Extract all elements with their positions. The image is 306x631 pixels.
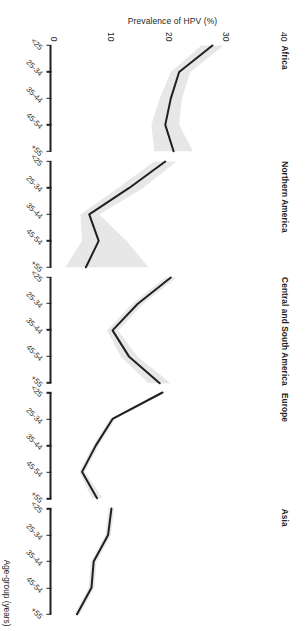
x-axis-tick-label: 25-34 — [25, 59, 45, 79]
chart-panel: Europe — [52, 393, 290, 509]
x-axis-tick-label: 45-54 — [25, 575, 45, 595]
panel-title: Europe — [280, 393, 290, 422]
x-axis-tick-label: 35-44 — [25, 548, 45, 568]
x-axis-tick-label: 35-44 — [25, 201, 45, 221]
x-axis-tick-label: 45-54 — [25, 343, 45, 363]
y-axis-tick-labels: 010203040 — [54, 22, 284, 42]
y-axis-tick-label: 10 — [107, 33, 117, 42]
x-axis-tick-label: 45-54 — [25, 112, 45, 132]
chart-panel: Africa — [52, 46, 290, 162]
panel-x-axis: <2525-3435-4445-54+55 — [4, 278, 52, 394]
panel-plot-area — [52, 509, 274, 615]
chart-panel: Central and South America — [52, 278, 290, 394]
x-axis-row: <2525-3435-4445-54+55<2525-3435-4445-54+… — [4, 46, 52, 625]
panel-x-axis: <2525-3435-4445-54+55 — [4, 162, 52, 278]
panel-plot-area — [52, 46, 274, 152]
panel-title: Northern America — [280, 162, 290, 233]
y-axis-tick-label: 0 — [49, 37, 59, 42]
panel-plot-area — [52, 162, 274, 268]
x-axis-tick-label: 45-54 — [25, 227, 45, 247]
x-axis-tick — [47, 151, 52, 152]
confidence-band — [66, 162, 177, 268]
y-axis-tick-label: 30 — [222, 33, 232, 42]
x-axis-tick-label: 25-34 — [25, 522, 45, 542]
x-axis-tick — [47, 383, 52, 384]
x-axis-tick-label: 35-44 — [25, 85, 45, 105]
x-axis-tick-label: 25-34 — [25, 290, 45, 310]
x-axis-title: Age-group (years) — [2, 560, 12, 627]
x-axis-tick-label: 25-34 — [25, 406, 45, 426]
x-axis-tick — [47, 267, 52, 268]
x-axis-tick-label: <25 — [30, 37, 45, 52]
figure-rotation-wrapper: Prevalence of HPV (%) 010203040 AfricaNo… — [0, 0, 306, 631]
x-axis-tick-label: +55 — [30, 606, 45, 621]
confidence-band — [80, 393, 166, 499]
panel-plot-area — [52, 278, 274, 384]
data-line — [83, 393, 163, 499]
chart-panel: Asia — [52, 509, 290, 625]
confidence-band — [152, 46, 224, 152]
panel-x-axis: <2525-3435-4445-54+55 — [4, 393, 52, 509]
x-axis-tick-label: 35-44 — [25, 317, 45, 337]
y-axis-tick-label: 40 — [279, 33, 289, 42]
y-axis-tick-label: 20 — [164, 33, 174, 42]
panel-title: Asia — [280, 509, 290, 527]
panel-x-axis: <2525-3435-4445-54+55 — [4, 46, 52, 162]
x-axis-tick-label: 45-54 — [25, 459, 45, 479]
x-axis-tick-label: 35-44 — [25, 433, 45, 453]
data-line — [113, 278, 171, 384]
x-axis-tick-label: 25-34 — [25, 174, 45, 194]
panel-title: Central and South America — [280, 278, 290, 387]
hpv-prevalence-figure: Prevalence of HPV (%) 010203040 AfricaNo… — [0, 0, 306, 631]
panel-row: AfricaNorthern AmericaCentral and South … — [52, 46, 290, 625]
chart-panel: Northern America — [52, 162, 290, 278]
x-axis-tick — [47, 498, 52, 499]
x-axis-tick — [47, 614, 52, 615]
panel-plot-area — [52, 393, 274, 499]
panel-title: Africa — [280, 46, 290, 70]
